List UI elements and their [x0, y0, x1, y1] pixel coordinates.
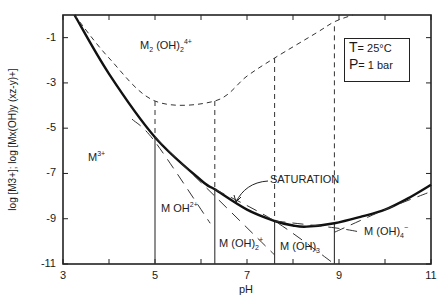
- temperature-value: = 25°C: [358, 42, 392, 54]
- label-dimer: M2 (OH)24+: [140, 38, 192, 53]
- x-tick: 5: [145, 269, 165, 281]
- x-tick: 3: [53, 269, 73, 281]
- label-m3: M3+: [88, 150, 105, 163]
- label-moh2: M (OH)2+: [219, 236, 263, 251]
- label-saturation: SATURATION: [270, 173, 339, 185]
- y-tick: -7: [28, 166, 56, 178]
- y-axis-label: log [M3+]; log [Mx(OH)y (xz-y)+]: [7, 35, 18, 245]
- label-moh4: M (OH)4−: [364, 224, 408, 239]
- temperature-symbol: T: [349, 39, 358, 55]
- y-tick: -1: [28, 31, 56, 43]
- label-moh3: M (OH)3: [280, 240, 320, 254]
- pressure-value: = 1 bar: [358, 59, 393, 71]
- y-tick: -9: [28, 212, 56, 224]
- label-moh: M OH2+: [161, 201, 198, 214]
- series-1: [75, 15, 353, 105]
- pressure-symbol: P: [349, 56, 358, 72]
- x-tick: 7: [237, 269, 257, 281]
- x-tick: 9: [329, 269, 349, 281]
- x-tick: 11: [421, 269, 441, 281]
- conditions-box: T= 25°C P= 1 bar: [344, 38, 410, 82]
- x-axis-label: pH: [239, 283, 253, 295]
- y-tick: -11: [28, 257, 56, 269]
- y-tick: -5: [28, 121, 56, 133]
- y-tick: -3: [28, 76, 56, 88]
